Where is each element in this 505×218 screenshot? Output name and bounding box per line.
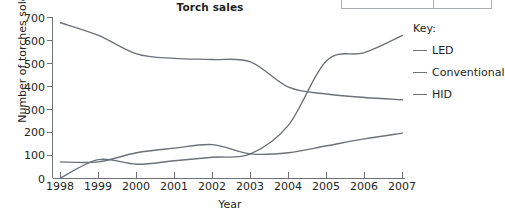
- legend-item-led[interactable]: LED: [413, 45, 505, 56]
- legend-item-conventional[interactable]: Conventional: [413, 67, 505, 78]
- legend-label-conventional: Conventional: [432, 67, 505, 78]
- legend-title: Key:: [413, 23, 505, 34]
- x-axis-ticks: [61, 172, 403, 178]
- legend: Key: LED Conventional HID: [413, 23, 505, 100]
- series-line-conventional: [61, 23, 403, 100]
- y-axis-ticks: [47, 18, 53, 156]
- legend-label-led: LED: [432, 45, 454, 56]
- legend-label-hid: HID: [432, 89, 452, 100]
- legend-swatch-hid-icon: [413, 94, 427, 95]
- legend-swatch-led-icon: [413, 50, 427, 51]
- series-line-led: [61, 35, 403, 178]
- data-series-group: [61, 23, 403, 178]
- axis-lines: [53, 17, 406, 179]
- legend-item-hid[interactable]: HID: [413, 89, 505, 100]
- series-line-hid: [61, 133, 403, 162]
- legend-swatch-conventional-icon: [413, 72, 427, 73]
